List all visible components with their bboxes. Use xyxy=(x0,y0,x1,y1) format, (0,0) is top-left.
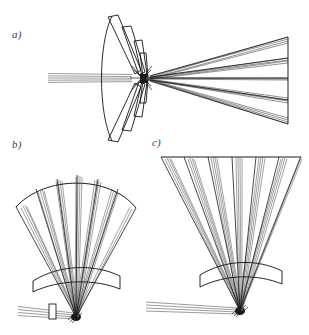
ray-trace-svg xyxy=(0,0,309,335)
panel-a-focus-point xyxy=(140,74,148,83)
panel-a-output-fan xyxy=(146,37,288,124)
aperture-stop-rect xyxy=(49,304,56,319)
panel-label-b: b) xyxy=(12,138,22,150)
panel-a-input-rays xyxy=(48,74,132,83)
panel-a-detector-segments xyxy=(150,37,288,124)
panel-c-group xyxy=(146,157,302,317)
panel-c-input-rays xyxy=(146,302,238,314)
panel-a-group xyxy=(48,15,288,142)
optics-figure: a) b) c) xyxy=(0,0,309,335)
panel-b-input-rays xyxy=(18,307,74,320)
panel-label-c: c) xyxy=(152,136,161,148)
panel-label-a: a) xyxy=(12,28,22,40)
panel-b-group xyxy=(16,175,136,323)
